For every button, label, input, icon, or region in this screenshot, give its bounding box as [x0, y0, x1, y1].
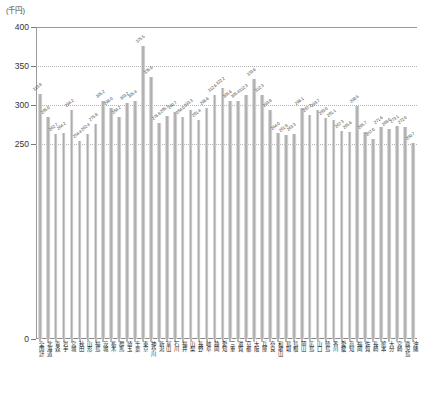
bar[interactable]	[70, 110, 74, 339]
bar-slot: 285.0	[44, 27, 52, 339]
bar[interactable]	[62, 133, 66, 339]
bar-slot: 269.0	[385, 27, 393, 339]
bar[interactable]	[46, 117, 50, 339]
bar-slot: 265.6	[346, 27, 354, 339]
bar-slot: 283.0	[322, 27, 330, 339]
bar[interactable]	[221, 88, 225, 339]
bar[interactable]	[173, 112, 177, 339]
bar-slot: 284.2	[115, 27, 123, 339]
bar-slot: 273.1	[393, 27, 401, 339]
bar-slot: 305.4	[131, 27, 139, 339]
bar[interactable]	[189, 110, 193, 339]
bar-slot: 272.0	[401, 27, 409, 339]
bar[interactable]	[403, 127, 407, 339]
bar[interactable]	[94, 124, 98, 339]
bar[interactable]	[316, 110, 320, 339]
bars-layer: 313.8285.0262.7264.2294.2254.4262.4275.8…	[36, 27, 417, 339]
bar[interactable]	[340, 131, 344, 339]
bar[interactable]	[110, 108, 114, 339]
bar[interactable]	[300, 108, 304, 339]
bar[interactable]	[332, 120, 336, 339]
y-axis-tick-label-0: 0	[24, 334, 29, 344]
bar-slot: 305.2	[100, 27, 108, 339]
bar-slot: 262.7	[52, 27, 60, 339]
bar-slot: 322.2	[219, 27, 227, 339]
prefecture-wage-bar-chart: (千円) 0250300350400 313.8285.0262.7264.22…	[0, 0, 427, 394]
bar-slot: 333.6	[250, 27, 258, 339]
bar[interactable]	[324, 118, 328, 339]
bar[interactable]	[86, 134, 90, 339]
bar[interactable]	[356, 106, 360, 339]
bar[interactable]	[292, 134, 296, 339]
bar-slot: 257.0	[369, 27, 377, 339]
bar-slot: 284.0	[179, 27, 187, 339]
bar[interactable]	[197, 120, 201, 339]
bar-slot: 264.2	[60, 27, 68, 339]
bar[interactable]	[102, 101, 106, 339]
bar[interactable]	[181, 117, 185, 339]
bar[interactable]	[54, 134, 58, 339]
bar-slot: 313.8	[36, 27, 44, 339]
bar[interactable]	[213, 95, 217, 339]
bar[interactable]	[387, 129, 391, 339]
bar-slot: 305.6	[227, 27, 235, 339]
bar-slot: 287.2	[306, 27, 314, 339]
bar[interactable]	[372, 139, 376, 339]
bar-slot: 276.9	[155, 27, 163, 339]
bar-slot: 293.3	[187, 27, 195, 339]
bar[interactable]	[133, 101, 137, 339]
bar-slot: 303.2	[123, 27, 131, 339]
bar[interactable]	[348, 132, 352, 339]
bar[interactable]	[125, 103, 129, 339]
bar[interactable]	[78, 141, 82, 339]
bar[interactable]	[38, 94, 42, 339]
bar-slot: 275.8	[92, 27, 100, 339]
bar-slot: 290.7	[171, 27, 179, 339]
bar[interactable]	[276, 133, 280, 339]
category-label: 沖縄	[409, 341, 418, 351]
bar[interactable]	[364, 132, 368, 339]
bar-slot: 261.9	[282, 27, 290, 339]
bar[interactable]	[260, 95, 264, 339]
bar-slot: 285.7	[163, 27, 171, 339]
category-label-layer: 全国計北海道青森岩手宮城秋田山形福島茨城栃木群馬埼玉千葉東京神奈川新潟富山石川福…	[36, 341, 417, 391]
bar[interactable]	[237, 101, 241, 339]
bar-slot: 293.7	[314, 27, 322, 339]
bar[interactable]	[284, 135, 288, 339]
bar[interactable]	[308, 115, 312, 339]
bar[interactable]	[118, 117, 122, 339]
bar[interactable]	[268, 110, 272, 339]
bar[interactable]	[141, 46, 145, 339]
bar-slot: 281.4	[195, 27, 203, 339]
bar-value-label: 313.8	[32, 82, 43, 92]
bar[interactable]	[205, 108, 209, 339]
bar-slot: 271.6	[377, 27, 385, 339]
bar-slot: 254.4	[76, 27, 84, 339]
bar-slot: 293.8	[266, 27, 274, 339]
bar[interactable]	[165, 116, 169, 339]
bar-slot: 296.0	[107, 27, 115, 339]
bar[interactable]	[395, 126, 399, 339]
bar-slot: 312.3	[258, 27, 266, 339]
y-axis-tick-label-300: 300	[15, 100, 29, 110]
y-axis-unit-label: (千円)	[6, 4, 25, 15]
bar-slot: 262.4	[84, 27, 92, 339]
y-axis-tick-label-250: 250	[15, 139, 29, 149]
bar[interactable]	[379, 127, 383, 339]
bar-slot: 281.1	[330, 27, 338, 339]
bar-slot: 312.6	[211, 27, 219, 339]
bar-slot: 265.7	[361, 27, 369, 339]
bar-slot: 267.3	[338, 27, 346, 339]
bar[interactable]	[229, 101, 233, 339]
bar[interactable]	[245, 95, 249, 339]
bar-slot: 250.7	[409, 27, 417, 339]
bar-slot: 296.6	[203, 27, 211, 339]
bar-slot: 294.2	[68, 27, 76, 339]
bar-slot: 298.5	[354, 27, 362, 339]
y-axis-tick-label-350: 350	[15, 61, 29, 71]
y-axis-tick-0	[31, 339, 36, 340]
bar-slot: 296.1	[298, 27, 306, 339]
bar[interactable]	[252, 79, 256, 339]
bar[interactable]	[411, 143, 415, 339]
bar[interactable]	[157, 123, 161, 339]
